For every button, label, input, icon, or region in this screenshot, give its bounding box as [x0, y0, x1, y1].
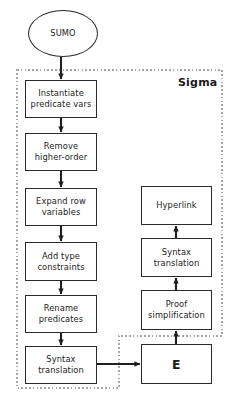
node-instantiate-predicate-vars[interactable]: Instantiate predicate vars [25, 80, 97, 118]
diagram-canvas: Sigma SUMO Instantiate predicate vars Re… [0, 0, 233, 405]
node-e-prover[interactable]: E [141, 344, 212, 384]
node-expand-row-variables[interactable]: Expand row variables [25, 188, 97, 226]
node-remove-higher-order[interactable]: Remove higher-order [25, 133, 97, 171]
node-syntax-translation-right[interactable]: Syntax translation [141, 238, 212, 277]
node-syntax-translation-left[interactable]: Syntax translation [25, 346, 97, 384]
sigma-region-label: Sigma [178, 76, 217, 89]
node-proof-simplification[interactable]: Proof simplification [141, 290, 212, 330]
node-add-type-constraints[interactable]: Add type constraints [25, 242, 97, 281]
node-hyperlink[interactable]: Hyperlink [141, 186, 212, 225]
node-sumo[interactable]: SUMO [28, 10, 98, 57]
node-rename-predicates[interactable]: Rename predicates [25, 295, 97, 333]
